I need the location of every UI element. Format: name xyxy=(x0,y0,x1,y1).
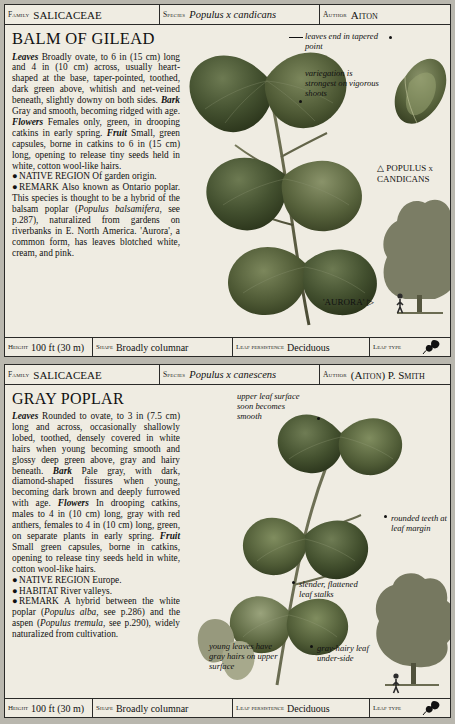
leaf-persistence-value: Deciduous xyxy=(287,703,330,714)
callout-dot xyxy=(317,417,320,420)
tree-silhouette xyxy=(376,573,450,685)
tree-silhouette xyxy=(383,200,450,313)
simple-leaf-icon xyxy=(420,700,442,717)
author-field: Author Aiton xyxy=(320,5,450,24)
author-label: Author xyxy=(323,10,347,19)
species-field: Species Populus x canescens xyxy=(160,365,320,384)
shape-field: Shape Broadly columnar xyxy=(93,338,233,356)
species-entry-gray-poplar: Family SALICACEAE Species Populus x cane… xyxy=(4,364,451,718)
leaf-persistence-label: Leaf persistence xyxy=(236,704,284,712)
simple-leaf-icon xyxy=(420,339,442,356)
common-name-title: BALM OF GILEAD xyxy=(12,31,180,48)
family-label: Family xyxy=(8,370,29,379)
variegated-leaf xyxy=(395,59,447,124)
description-column: BALM OF GILEAD Leaves Broadly ovate, to … xyxy=(12,29,180,259)
entry-body: GRAY POPLAR Leaves Rounded to ovate, to … xyxy=(5,385,450,698)
human-scale-figure xyxy=(397,293,403,313)
leaf-type-field: Leaf type xyxy=(370,338,450,356)
callout-dot xyxy=(384,515,387,518)
triangle-marker: △ xyxy=(377,163,384,173)
callout-leaf-stalks: slender, flattened leaf stalks xyxy=(299,579,365,599)
specimen-caption-text: 'AURORA' xyxy=(323,297,364,307)
family-field: Family SALICACEAE xyxy=(5,5,160,24)
height-field: Height 100 ft (30 m) xyxy=(5,338,93,356)
entry-footer: Height 100 ft (30 m) Shape Broadly colum… xyxy=(5,698,450,717)
author-field: Author (Aiton) P. Smith xyxy=(320,365,450,384)
specimen-caption: 'AURORA' ▷ xyxy=(323,297,374,308)
height-label: Height xyxy=(8,704,28,712)
callout-dot xyxy=(389,36,392,39)
illustration-area: upper leaf surface soon becomes smooth r… xyxy=(181,385,450,698)
leaf-type-field: Leaf type xyxy=(370,699,450,717)
description-paragraph: Leaves Broadly ovate, to 6 in (15 cm) lo… xyxy=(12,52,180,172)
callout-rounded-teeth: rounded teeth at leaf margin xyxy=(391,513,449,533)
author-value: (Aiton) P. Smith xyxy=(351,369,425,381)
family-value: SALICACEAE xyxy=(33,369,101,381)
family-field: Family SALICACEAE xyxy=(5,365,160,384)
entry-header: Family SALICACEAE Species Populus x cane… xyxy=(5,365,450,385)
callout-variegation: variegation is strongest on vigorous sho… xyxy=(305,68,385,98)
shape-value: Broadly columnar xyxy=(116,342,188,353)
remark-paragraph: ●REMARK Also known as Ontario poplar. Th… xyxy=(12,182,180,258)
callout-tapered-point: leaves end in tapered point xyxy=(305,31,385,51)
shape-label: Shape xyxy=(96,343,113,351)
author-label: Author xyxy=(323,370,347,379)
callout-leaf-underside: gray-hairy leaf under-side xyxy=(317,643,379,663)
entry-footer: Height 100 ft (30 m) Shape Broadly colum… xyxy=(5,337,450,356)
height-value: 100 ft (30 m) xyxy=(31,342,84,353)
entry-body: BALM OF GILEAD Leaves Broadly ovate, to … xyxy=(5,25,450,337)
species-value: Populus x canescens xyxy=(189,369,276,380)
description-column: GRAY POPLAR Leaves Rounded to ovate, to … xyxy=(12,389,180,640)
species-entry-balm-of-gilead: Family SALICACEAE Species Populus x cand… xyxy=(4,4,451,357)
leaf-type-label: Leaf type xyxy=(373,343,401,351)
height-field: Height 100 ft (30 m) xyxy=(5,699,93,717)
description-paragraph: Leaves Rounded to ovate, to 3 in (7.5 cm… xyxy=(12,411,180,575)
height-label: Height xyxy=(8,343,28,351)
habitat-paragraph: ●HABITAT River valleys. xyxy=(12,586,180,597)
species-value: Populus x candicans xyxy=(189,9,276,20)
field-guide-page: Family SALICACEAE Species Populus x cand… xyxy=(0,0,455,724)
shape-value: Broadly columnar xyxy=(116,703,188,714)
leaf-type-label: Leaf type xyxy=(373,704,401,712)
native-region-paragraph: ●NATIVE REGION Europe. xyxy=(12,575,180,586)
leaf-persistence-label: Leaf persistence xyxy=(236,343,284,351)
human-scale-figure xyxy=(393,673,399,693)
species-label: Species xyxy=(163,10,185,19)
plate-caption-text: POPULUS x CANDICANS xyxy=(377,163,433,184)
plate-caption: △ POPULUS x CANDICANS xyxy=(377,163,449,184)
callout-dot xyxy=(299,100,302,103)
author-value: Aiton xyxy=(351,9,378,21)
height-value: 100 ft (30 m) xyxy=(31,703,84,714)
shape-label: Shape xyxy=(96,704,113,712)
illustration-area: leaves end in tapered point variegation … xyxy=(181,25,450,337)
leaf-cluster xyxy=(230,414,402,655)
leaf-persistence-field: Leaf persistence Deciduous xyxy=(233,338,370,356)
leaf-persistence-value: Deciduous xyxy=(287,342,330,353)
callout-dot xyxy=(310,645,313,648)
family-label: Family xyxy=(8,10,29,19)
callout-dot xyxy=(292,581,295,584)
species-field: Species Populus x candicans xyxy=(160,5,320,24)
remark-paragraph: ●REMARK A hybrid between the white popla… xyxy=(12,596,180,640)
family-value: SALICACEAE xyxy=(33,9,101,21)
common-name-title: GRAY POPLAR xyxy=(12,391,180,407)
callout-upper-leaf-surface: upper leaf surface soon becomes smooth xyxy=(237,391,311,421)
native-region-paragraph: ●NATIVE REGION Of garden origin. xyxy=(12,171,180,182)
entry-header: Family SALICACEAE Species Populus x cand… xyxy=(5,5,450,25)
callout-leader xyxy=(289,37,303,38)
leaf-persistence-field: Leaf persistence Deciduous xyxy=(233,699,370,717)
callout-young-leaves: young leaves have gray hairs on upper su… xyxy=(209,641,289,671)
species-label: Species xyxy=(163,370,185,379)
shape-field: Shape Broadly columnar xyxy=(93,699,233,717)
triangle-marker: ▷ xyxy=(367,297,374,307)
